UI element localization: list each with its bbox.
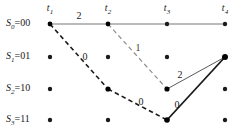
state-label-value: =01 [15, 50, 31, 61]
nodes-layer [48, 22, 228, 123]
state-label-s0: S0=00 [6, 17, 30, 31]
state-label-value: =10 [15, 82, 31, 93]
time-label-subscript: 1 [50, 8, 54, 16]
trellis-diagram: S0=00S1=01S2=10S3=11 t1t2t3t4 201020 [0, 0, 245, 136]
trellis-node [164, 117, 170, 123]
time-label-t3: t3 [164, 2, 170, 16]
edges-layer [50, 24, 225, 120]
edge-weight-label: 2 [77, 10, 82, 21]
edge-weight-label: 2 [178, 69, 183, 80]
trellis-node [48, 118, 52, 122]
edge-weight-label: 0 [175, 99, 180, 110]
trellis-node [222, 54, 228, 60]
trellis-edge [167, 57, 225, 89]
trellis-node [48, 55, 52, 59]
state-label-value: =00 [15, 17, 31, 28]
trellis-edge [167, 57, 225, 120]
trellis-edge [108, 24, 167, 89]
trellis-edge [50, 24, 108, 89]
trellis-node [106, 22, 111, 27]
time-label-subscript: 4 [225, 8, 229, 16]
trellis-node [223, 87, 227, 91]
trellis-node [164, 86, 169, 91]
trellis-node [48, 87, 52, 91]
state-label-s2: S2=10 [6, 82, 30, 96]
trellis-node [106, 55, 110, 59]
time-label-t1: t1 [47, 2, 53, 16]
trellis-node [106, 118, 110, 122]
trellis-canvas [0, 0, 245, 136]
edge-weight-label: 0 [139, 96, 144, 107]
state-label-s3: S3=11 [6, 113, 30, 127]
trellis-node [223, 22, 227, 26]
time-label-t4: t4 [222, 2, 228, 16]
trellis-node [105, 86, 110, 91]
trellis-node [165, 55, 169, 59]
edge-weight-label: 1 [136, 42, 141, 53]
trellis-edge [108, 89, 167, 120]
time-label-t2: t2 [105, 2, 111, 16]
trellis-node [48, 22, 53, 27]
time-label-subscript: 2 [108, 8, 112, 16]
state-label-s1: S1=01 [6, 50, 30, 64]
time-label-subscript: 3 [167, 8, 171, 16]
state-label-value: =11 [15, 113, 30, 124]
edge-weight-label: 0 [83, 51, 88, 62]
trellis-node [223, 118, 227, 122]
trellis-node [165, 22, 169, 26]
